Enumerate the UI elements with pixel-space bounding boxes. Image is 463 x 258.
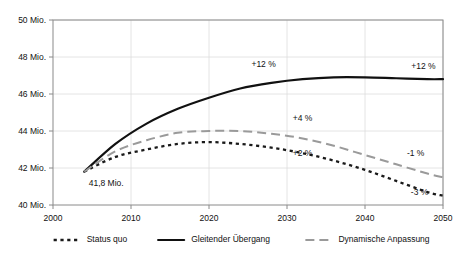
y-axis-label-40: 40 Mio. bbox=[18, 200, 46, 210]
y-axis-label-46: 46 Mio. bbox=[18, 89, 46, 99]
annotation-3-2: +2 % bbox=[293, 148, 313, 158]
annotation-2-4: +4 % bbox=[293, 113, 313, 123]
x-axis-label-2020: 2020 bbox=[200, 213, 219, 223]
x-axis-label-2000: 2000 bbox=[44, 213, 63, 223]
x-axis-label-2050: 2050 bbox=[434, 213, 453, 223]
x-axis-label-2040: 2040 bbox=[356, 213, 375, 223]
annotation-1-12: +12 % bbox=[411, 61, 436, 71]
legend-label-gleitender-bergang: Gleitender Übergang bbox=[191, 234, 270, 244]
annotation-5-3: -3 % bbox=[411, 187, 429, 197]
x-axis-label-2030: 2030 bbox=[278, 213, 297, 223]
y-axis-label-44: 44 Mio. bbox=[18, 126, 46, 136]
start-value-label: 41,8 Mio. bbox=[89, 178, 124, 188]
legend-label-dynamische-anpassung: Dynamische Anpassung bbox=[338, 234, 429, 244]
x-axis-label-2010: 2010 bbox=[122, 213, 141, 223]
y-axis-label-48: 48 Mio. bbox=[18, 52, 46, 62]
annotation-0-12: +12 % bbox=[251, 59, 276, 69]
y-axis-label-50: 50 Mio. bbox=[18, 15, 46, 25]
annotation-4-1: -1 % bbox=[407, 148, 425, 158]
population-projection-chart: 40 Mio.42 Mio.44 Mio.46 Mio.48 Mio.50 Mi… bbox=[0, 0, 463, 258]
y-axis-label-42: 42 Mio. bbox=[18, 163, 46, 173]
chart-container: 40 Mio.42 Mio.44 Mio.46 Mio.48 Mio.50 Mi… bbox=[0, 0, 463, 258]
legend-label-status-quo: Status quo bbox=[87, 234, 128, 244]
